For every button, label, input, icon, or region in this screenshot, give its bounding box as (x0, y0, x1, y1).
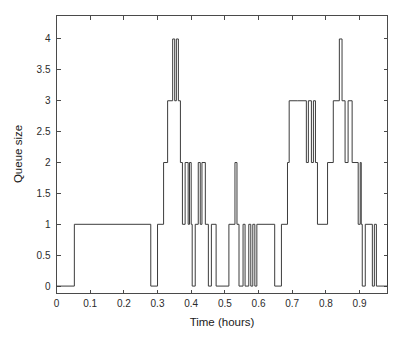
y-axis-tick-labels: 00.511.522.533.54 (37, 33, 51, 291)
figure-container: 00.10.20.30.40.50.60.70.80.9 00.511.522.… (0, 0, 409, 341)
y-tick-label-7: 3.5 (37, 64, 51, 75)
plot-frame (57, 16, 388, 294)
x-tick-label-4: 0.4 (184, 298, 198, 309)
y-tick-label-1: 0.5 (37, 250, 51, 261)
x-axis-title: Time (hours) (190, 316, 255, 328)
x-tick-label-9: 0.9 (353, 298, 367, 309)
y-tick-label-3: 1.5 (37, 188, 51, 199)
y-tick-label-2: 1 (45, 219, 51, 230)
y-tick-label-4: 2 (45, 157, 51, 168)
plot-frame-rect (57, 16, 388, 294)
x-tick-label-8: 0.8 (319, 298, 333, 309)
x-tick-label-5: 0.5 (218, 298, 232, 309)
x-tick-label-1: 0.1 (83, 298, 97, 309)
x-tick-label-7: 0.7 (285, 298, 299, 309)
y-tick-label-5: 2.5 (37, 126, 51, 137)
y-axis-ticks (57, 39, 388, 286)
queue-size-step-chart: 00.10.20.30.40.50.60.70.80.9 00.511.522.… (0, 0, 409, 341)
x-tick-label-0: 0 (54, 298, 60, 309)
x-tick-label-2: 0.2 (117, 298, 131, 309)
y-tick-label-0: 0 (45, 281, 51, 292)
series-line-0 (57, 39, 388, 286)
y-tick-label-6: 3 (45, 95, 51, 106)
x-tick-label-6: 0.6 (252, 298, 266, 309)
y-tick-label-8: 4 (45, 33, 51, 44)
x-tick-label-3: 0.3 (151, 298, 165, 309)
x-axis-tick-labels: 00.10.20.30.40.50.60.70.80.9 (54, 298, 367, 309)
y-axis-title: Queue size (12, 125, 24, 183)
data-series-group (57, 39, 388, 286)
